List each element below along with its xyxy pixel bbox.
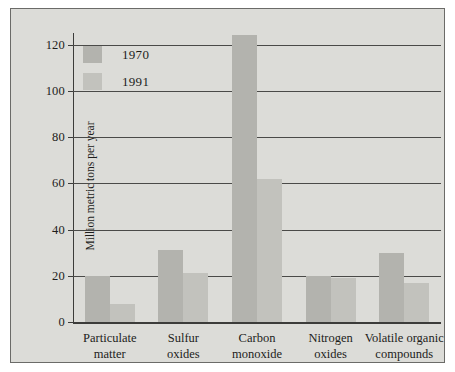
legend-item-1970: 1970	[83, 41, 149, 68]
y-tick-label-0: 0	[59, 315, 65, 330]
bar-1970-3	[306, 276, 331, 322]
bar-1970-0	[85, 276, 110, 322]
category-label-line: compounds	[349, 346, 455, 362]
bar-1991-3	[331, 278, 356, 322]
y-tick-label-20: 20	[52, 268, 65, 283]
bar-1970-4	[379, 253, 404, 322]
bar-1991-1	[183, 273, 208, 322]
y-tick-mark-0	[68, 322, 73, 323]
y-tick-label-120: 120	[46, 37, 65, 52]
y-tick-label-60: 60	[52, 176, 65, 191]
y-tick-label-40: 40	[52, 222, 65, 237]
legend-item-1991: 1991	[83, 68, 149, 95]
legend-label-1991: 1991	[122, 74, 149, 90]
x-axis-line	[73, 322, 441, 324]
category-label-4: Volatile organiccompounds	[349, 330, 455, 362]
category-label-line: Volatile organic	[349, 330, 455, 346]
legend-label-1970: 1970	[122, 47, 149, 63]
bar-1970-1	[158, 250, 183, 322]
y-tick-label-80: 80	[52, 130, 65, 145]
legend-swatch-1970	[83, 46, 102, 63]
bar-1970-2	[232, 35, 257, 322]
legend-swatch-1991	[83, 73, 102, 90]
bar-1991-2	[257, 179, 282, 322]
bar-1991-4	[404, 283, 429, 322]
y-tick-label-100: 100	[46, 83, 65, 98]
chart-panel: Million metric tons per year 02040608010…	[10, 8, 445, 363]
bar-1991-0	[110, 304, 135, 322]
chart-figure: Million metric tons per year 02040608010…	[0, 0, 455, 372]
chart-legend: 1970 1991	[83, 41, 149, 95]
